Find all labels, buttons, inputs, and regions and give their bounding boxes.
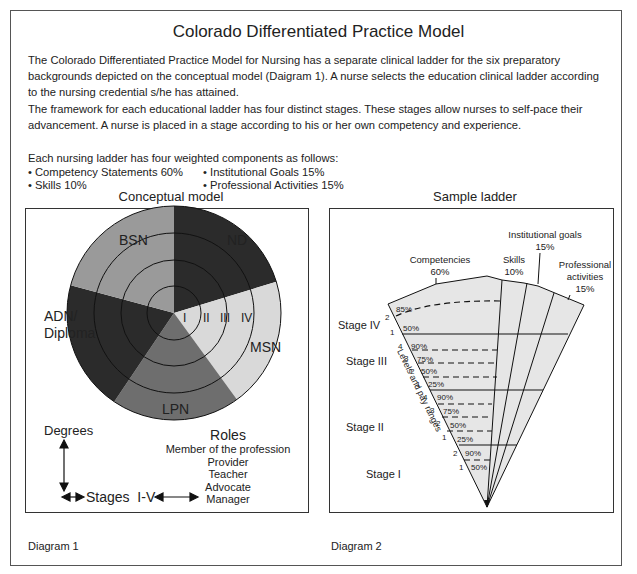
level-number: 2 [453,449,458,458]
level-pct: 90% [437,393,453,402]
professional-label-1: Professional [559,259,611,270]
level-pct: 25% [428,380,444,389]
level-pct: 50% [421,367,437,376]
level-pct: 50% [450,421,466,430]
level-pct: 90% [411,342,427,351]
institutional-pct: 15% [535,241,555,252]
level-pct: 25% [457,435,473,444]
stage-ii-label: Stage II [346,421,384,433]
sample-ladder-chart: Competencies 60% Skills 10% Institutiona… [0,0,637,574]
competencies-pct: 60% [430,266,450,277]
level-pct: 90% [465,449,481,458]
professional-label-2: activities [567,271,604,282]
skills-pct: 10% [504,266,524,277]
stage-iii-label: Stage III [346,355,387,367]
institutional-label: Institutional goals [508,229,582,240]
apex-marker [484,500,490,508]
level-pct: 85% [396,305,412,314]
level-pct: 75% [443,407,459,416]
level-number: 1 [390,328,395,337]
level-number: 2 [385,313,390,322]
level-number: 1 [459,463,464,472]
level-number: 1 [442,433,447,442]
stage-iv-label: Stage IV [338,319,381,331]
skills-label: Skills [503,254,525,265]
stage-i-label: Stage I [366,468,401,480]
level-pct: 75% [417,355,433,364]
level-pct: 50% [471,463,487,472]
professional-pct: 15% [575,283,595,294]
competencies-label: Competencies [410,254,471,265]
level-pct: 50% [403,324,419,333]
